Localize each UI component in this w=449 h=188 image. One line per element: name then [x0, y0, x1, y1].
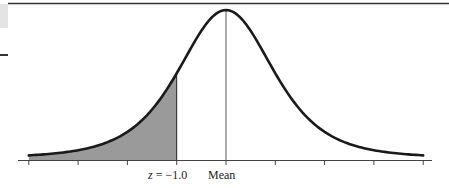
distribution-chart — [0, 0, 449, 188]
z-score-label: z = −1.0 — [148, 168, 187, 183]
mean-label: Mean — [208, 168, 235, 183]
shaded-left-tail — [29, 73, 177, 160]
